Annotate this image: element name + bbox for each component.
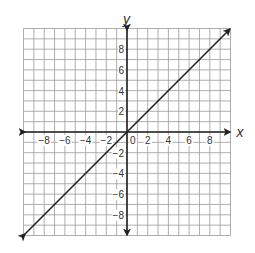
y-tick-label: −8: [113, 210, 125, 221]
y-tick-label: 6: [118, 65, 124, 76]
x-tick-label: −2: [101, 135, 113, 146]
x-tick-label: 0: [130, 135, 136, 146]
x-tick-label: −6: [59, 135, 71, 146]
x-tick-label: 4: [166, 135, 172, 146]
y-tick-label: 2: [118, 106, 124, 117]
x-tick-label: −8: [38, 135, 50, 146]
coordinate-plane: −8−6−4−2024688642−2−4−6−8 x y: [0, 0, 255, 253]
y-tick-label: 4: [118, 86, 124, 97]
x-axis-label: x: [236, 124, 245, 140]
x-tick-label: −4: [80, 135, 92, 146]
x-tick-label: 8: [207, 135, 213, 146]
x-tick-label: 6: [186, 135, 192, 146]
y-axis-label: y: [122, 11, 131, 27]
y-tick-label: −2: [113, 148, 125, 159]
y-tick-label: 8: [118, 44, 124, 55]
x-tick-label: 2: [145, 135, 151, 146]
y-tick-label: −6: [113, 189, 125, 200]
y-tick-label: −4: [113, 168, 125, 179]
